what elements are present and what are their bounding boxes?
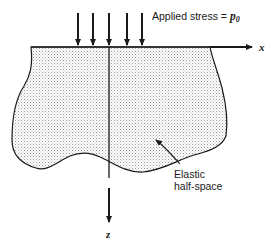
half-space-body — [12, 47, 227, 172]
x-axis-label: x — [258, 41, 265, 53]
applied-stress-label: Applied stress = p0 — [152, 10, 240, 24]
z-axis-label: z — [105, 228, 111, 240]
body-label-line2: half-space — [174, 180, 223, 192]
elastic-half-space-diagram: Applied stress = p0 x z Elastic half-spa… — [0, 0, 274, 245]
body-label-line1: Elastic — [174, 168, 205, 180]
applied-load-arrows — [78, 13, 142, 45]
